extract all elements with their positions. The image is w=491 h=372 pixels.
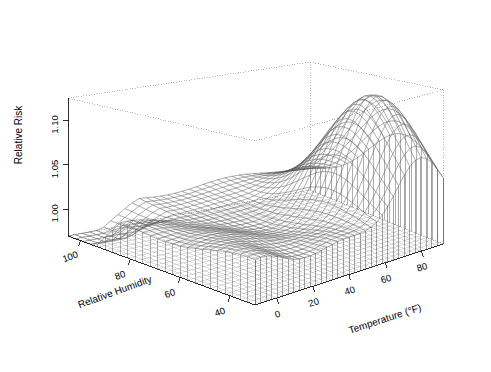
surface-wireframe-mesh [68, 95, 443, 260]
z-tick-label-2: 1.00 [49, 204, 60, 223]
bounding-box-back-edges [68, 62, 443, 244]
x-tick-label-0: 0 [273, 308, 281, 320]
x-tick-label-1: 20 [307, 295, 320, 309]
x-tick-label-4: 80 [415, 260, 428, 274]
y-tick-label-1: 80 [113, 268, 127, 282]
x-tick-label-3: 60 [379, 272, 392, 286]
z-tick-label-1: 1.05 [49, 160, 60, 179]
axis-text-layer: 1.101.051.00Relative Risk100806040Relati… [13, 105, 429, 336]
x-tick-label-2: 40 [343, 284, 356, 298]
y-tick-label-0: 100 [61, 249, 80, 265]
z-tick-label-0: 1.10 [49, 115, 60, 133]
persp-3d-canvas: 1.101.051.00Relative Risk100806040Relati… [0, 0, 491, 372]
z-axis-title: Relative Risk [13, 105, 24, 164]
surface-plot-figure: 1.101.051.00Relative Risk100806040Relati… [0, 0, 491, 372]
y-tick-label-2: 60 [163, 286, 177, 300]
x-axis-title: Temperature (°F) [347, 302, 422, 336]
y-tick-label-3: 40 [213, 305, 227, 319]
